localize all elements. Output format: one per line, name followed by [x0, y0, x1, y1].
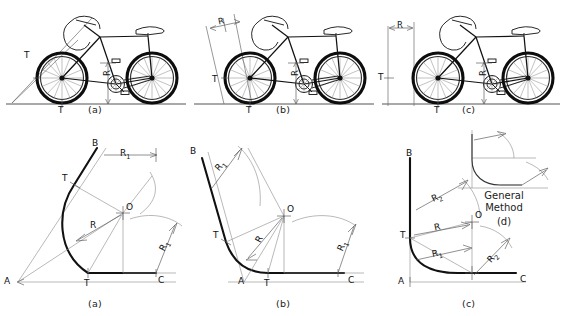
label-tangent-left-a: T: [24, 50, 30, 60]
label-point-b-b: B: [190, 146, 196, 156]
caption-row2-c: (c): [462, 298, 475, 309]
construction-panel-a: B A C O T T R R1 R1 (a): [0, 130, 188, 316]
label-radius-main-a: R: [90, 220, 96, 230]
bicycle-panel-b: R T T R (b): [188, 0, 376, 118]
inset-title-line2: Method: [460, 202, 548, 214]
bicycle-panel-a: T T R (a): [0, 0, 188, 118]
caption-row1-c: (c): [462, 104, 475, 115]
bicycle-drawing-b: [188, 0, 376, 118]
inset-title-line1: General: [460, 190, 548, 202]
label-point-b-c: B: [406, 148, 412, 158]
label-tangent-upper-b: T: [213, 230, 219, 240]
label-radius-vertical-a: R: [102, 70, 112, 76]
label-point-a-a: A: [4, 276, 10, 286]
figure-root: T T R (a): [0, 0, 562, 316]
label-tangent-lower-a: T: [84, 278, 90, 288]
label-tangent-ground-c: T: [434, 105, 440, 115]
label-center-o-b: O: [287, 204, 294, 214]
bicycle-panel-c: R T T R (c): [376, 0, 562, 118]
label-point-b-a: B: [92, 138, 98, 148]
label-point-a-c: A: [398, 276, 404, 286]
caption-row1-a: (a): [88, 104, 102, 115]
inset-general-method-drawing: [458, 130, 548, 188]
label-tangent-left-b: T: [212, 74, 218, 84]
caption-row1-b: (b): [276, 104, 290, 115]
construction-drawing-b: [188, 130, 376, 316]
label-tangent-left-c2: T: [400, 230, 406, 240]
label-point-a-b: A: [238, 276, 244, 286]
label-point-c-a: C: [158, 275, 164, 285]
label-radius-vertical-c: R: [478, 70, 488, 76]
inset-caption-d: (d): [460, 216, 548, 228]
label-tangent-ground-b: T: [246, 105, 252, 115]
label-radius-horizontal-c: R: [397, 20, 403, 30]
label-radius-one-top-a: R1: [120, 148, 130, 161]
caption-row2-b: (b): [276, 298, 290, 309]
label-radius-vertical-b: R: [290, 70, 300, 76]
caption-row2-a: (a): [88, 298, 102, 309]
label-tangent-ground-a: T: [58, 105, 64, 115]
label-center-o-a: O: [126, 202, 133, 212]
label-point-c-b: C: [348, 275, 354, 285]
label-tangent-lower-b: T: [264, 278, 270, 288]
label-tangent-left-c: T: [378, 72, 384, 82]
bicycle-drawing-c: [376, 0, 562, 118]
construction-panel-c: B A C O T R2 R R1 R2 (c) General Method …: [376, 130, 562, 316]
label-tangent-upper-a: T: [62, 173, 68, 183]
construction-panel-b: B A C O T T R R1 R1 (b): [188, 130, 376, 316]
label-point-c-c: C: [520, 274, 526, 284]
